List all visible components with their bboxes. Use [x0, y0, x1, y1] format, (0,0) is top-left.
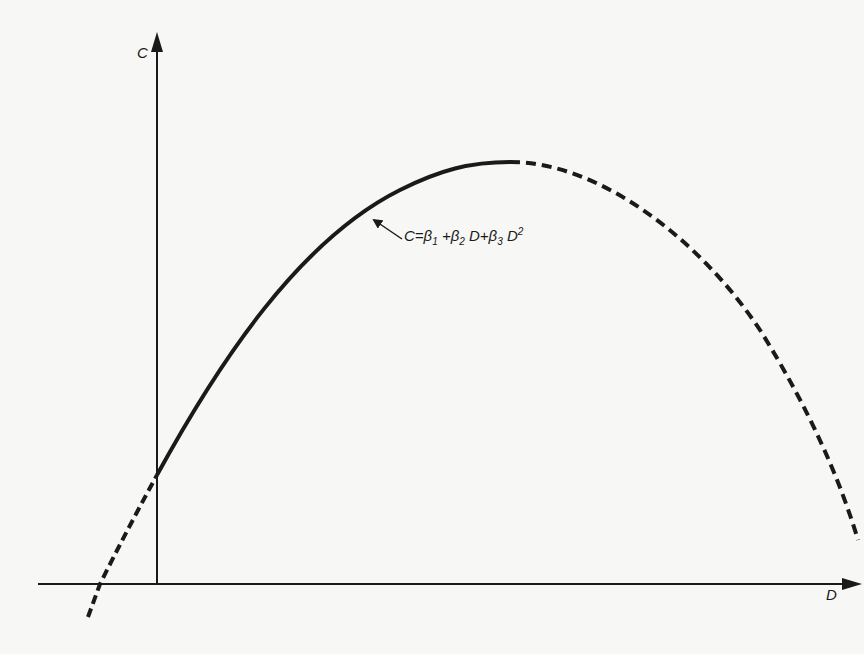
y-axis-label: C	[137, 44, 148, 61]
curve-solid	[157, 162, 510, 475]
eq-plus2: +	[480, 227, 489, 244]
x-axis-label: D	[826, 586, 837, 603]
y-axis-arrow-icon	[151, 32, 163, 52]
curve-extrapolation-right	[510, 162, 858, 540]
eq-beta1: β	[424, 227, 433, 244]
quadratic-curve-figure	[0, 0, 864, 654]
eq-beta2: β	[451, 227, 460, 244]
equation-label: C=β1 +β2 D+β3 D2	[404, 226, 523, 247]
annotation-arrow	[374, 220, 402, 239]
eq-plus1: +	[438, 227, 451, 244]
curve-extrapolation-left	[88, 475, 157, 617]
eq-d1: D	[465, 227, 480, 244]
eq-d2: D	[503, 227, 518, 244]
x-axis-arrow-icon	[842, 578, 862, 590]
eq-equals: =	[415, 227, 424, 244]
eq-beta3: β	[489, 227, 498, 244]
eq-power: 2	[518, 226, 524, 237]
eq-c: C	[404, 227, 415, 244]
